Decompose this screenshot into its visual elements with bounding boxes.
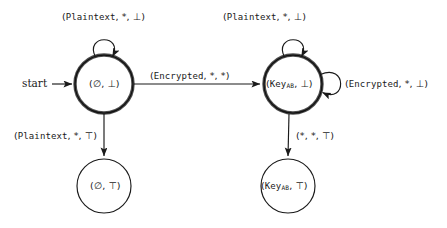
start-label: start [22,78,47,89]
edge-label-loop-keyab-plaintext: (Plaintext, *, ⊥) [223,12,306,22]
arrow-keyab-to-top[interactable] [288,114,289,156]
edge-tail: , *, ⊤) [67,130,97,141]
edge-full: (*, *, ⊤) [296,130,334,141]
edge-tail: , *, ⊥) [398,78,428,89]
edge-label-encrypt-transition: (Encrypted, *, *) [150,71,229,81]
edge-label-loop-keyab-encrypted: (Encrypted, *, ⊥) [345,79,428,89]
edge-tail: , *, ⊥) [276,11,306,22]
state-label-empty-top: (∅, ⊤) [90,181,121,191]
state-label-keyab-bottom: (KeyAB, ⊥) [266,79,313,89]
edge-label-empty-to-top: (Plaintext, *, ⊤) [14,131,97,141]
edge-tail: , *, ⊥) [115,11,145,22]
edge-tail: , *, *) [203,70,229,81]
state-label-empty-bottom: (∅, ⊥) [89,79,120,89]
edge-token-plaintext: Plaintext [227,12,277,22]
edge-token-encrypted: Encrypted [154,71,204,81]
edge-label-loop-empty-plaintext: (Plaintext, *, ⊥) [62,12,145,22]
state-machine-svg [0,0,447,228]
edge-token-encrypted: Encrypted [349,79,399,89]
edge-token-plaintext: Plaintext [18,131,68,141]
edge-label-keyab-to-top: (*, *, ⊤) [296,131,334,141]
state-label-keyab-top: (KeyAB, ⊤) [261,181,308,191]
diagram-canvas: start (Plaintext, *, ⊥) (Plaintext, *, ⊥… [0,0,447,228]
state-token-key: Key [270,79,287,89]
state-tail: , ⊤) [289,180,307,191]
state-tail: , ⊥) [294,78,312,89]
state-token-key: Key [265,181,282,191]
edge-token-plaintext: Plaintext [66,12,116,22]
